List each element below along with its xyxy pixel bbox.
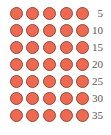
dot — [10, 41, 23, 54]
dot — [26, 24, 39, 37]
dot — [26, 109, 39, 122]
dot — [26, 75, 39, 88]
dot-row-3: 15 — [0, 41, 111, 54]
dot — [43, 24, 56, 37]
row-total-label: 30 — [83, 91, 103, 105]
dot-array-figure: 5 10 15 20 25 30 — [0, 0, 111, 135]
dot — [43, 41, 56, 54]
dot — [26, 92, 39, 105]
row-total-label: 25 — [83, 74, 103, 88]
dot — [60, 24, 73, 37]
dot — [60, 92, 73, 105]
dot — [43, 92, 56, 105]
dot — [43, 109, 56, 122]
dot — [26, 58, 39, 71]
dot — [60, 41, 73, 54]
dot — [10, 92, 23, 105]
dot — [26, 41, 39, 54]
dot-row-1: 5 — [0, 7, 111, 20]
dot — [43, 58, 56, 71]
dot — [43, 75, 56, 88]
dot — [10, 24, 23, 37]
dot — [10, 109, 23, 122]
dot — [10, 7, 23, 20]
dot — [60, 75, 73, 88]
dot — [60, 109, 73, 122]
dot — [43, 7, 56, 20]
dot-row-2: 10 — [0, 24, 111, 37]
dot — [10, 58, 23, 71]
row-total-label: 15 — [83, 40, 103, 54]
row-total-label: 20 — [83, 57, 103, 71]
row-total-label: 10 — [83, 23, 103, 37]
row-total-label: 35 — [83, 108, 103, 122]
dot-row-7: 35 — [0, 109, 111, 122]
dot — [26, 7, 39, 20]
dot-row-4: 20 — [0, 58, 111, 71]
row-total-label: 5 — [83, 6, 103, 20]
dot — [60, 58, 73, 71]
dot-row-6: 30 — [0, 92, 111, 105]
dot — [10, 75, 23, 88]
dot-row-5: 25 — [0, 75, 111, 88]
dot — [60, 7, 73, 20]
